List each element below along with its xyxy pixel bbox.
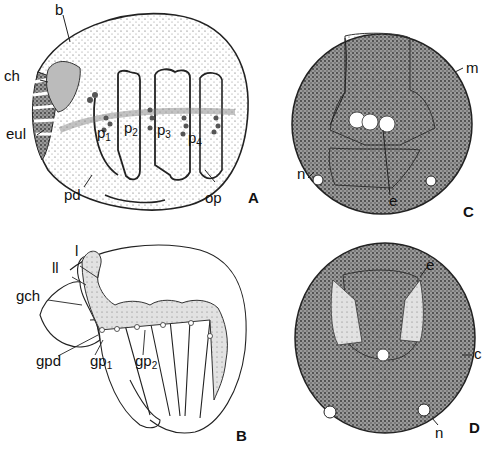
- label-pd: pd: [64, 187, 81, 202]
- label-eul: eul: [6, 126, 26, 141]
- label-p1: p1: [97, 125, 111, 143]
- figure-drawings: [0, 0, 491, 449]
- panel-letter-b: B: [236, 428, 247, 443]
- label-ch: ch: [4, 68, 20, 83]
- label-p3: p3: [157, 122, 171, 140]
- label-n-d: n: [435, 425, 443, 440]
- panel-letter-a: A: [248, 190, 259, 205]
- label-n-c: n: [297, 166, 305, 181]
- panel-letter-c: C: [463, 204, 474, 219]
- label-gp1: gp1: [90, 353, 112, 371]
- label-m: m: [466, 60, 479, 75]
- label-op: op: [205, 190, 222, 205]
- label-gch: gch: [16, 288, 40, 303]
- label-gp2: gp2: [135, 353, 157, 371]
- panel-letter-d: D: [469, 420, 480, 435]
- panel-c-section: [292, 33, 472, 214]
- label-p4: p4: [188, 130, 202, 148]
- label-ll: ll: [52, 260, 59, 275]
- panel-b-gonad-shading: [82, 251, 227, 400]
- label-e-c: e: [389, 193, 397, 208]
- label-p2: p2: [124, 120, 138, 138]
- label-gpd: gpd: [36, 353, 61, 368]
- panel-a-embryo: [32, 14, 248, 211]
- label-b: b: [55, 2, 63, 17]
- panel-d-section: [295, 243, 475, 433]
- label-c: c: [474, 346, 482, 361]
- label-l: l: [75, 243, 78, 258]
- label-e-d: e: [426, 257, 434, 272]
